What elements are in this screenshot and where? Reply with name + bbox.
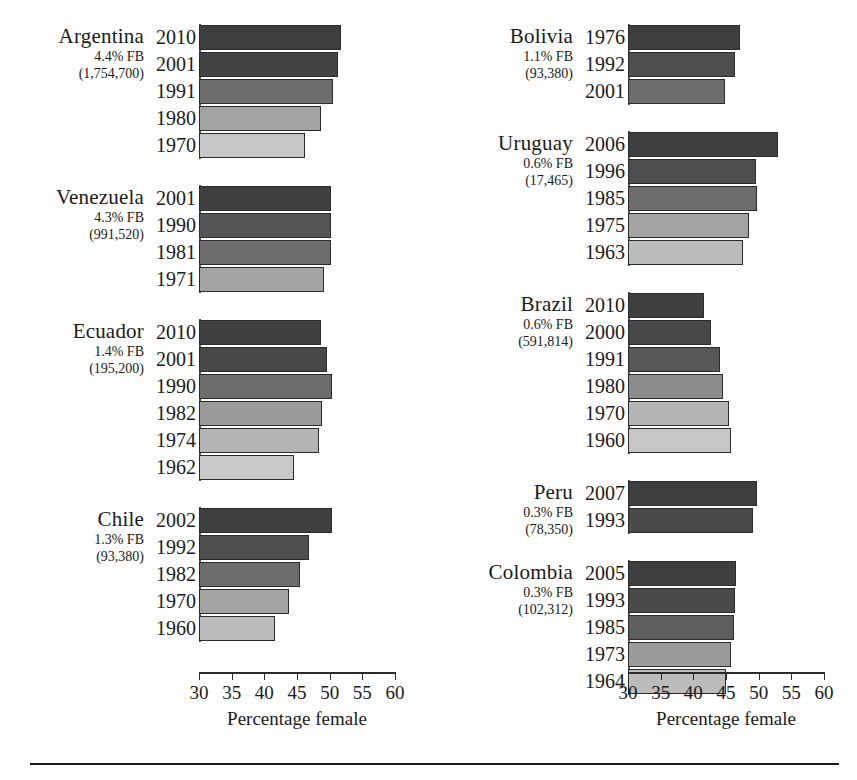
bar-1991 (199, 79, 333, 104)
bar-track (628, 24, 857, 51)
country-fb-percent: 0.3% FB (429, 504, 573, 521)
bar-track (199, 400, 428, 427)
bar-row: 1976 (579, 24, 857, 51)
bar-2006 (628, 132, 778, 157)
bar-row: 2007 (579, 480, 857, 507)
bar-2001 (199, 186, 331, 211)
x-tick (297, 672, 298, 680)
bar-year-label: 1981 (150, 239, 196, 266)
country-fb-count: (195,200) (0, 360, 144, 377)
country-group-ecuador: Ecuador1.4% FB(195,200)20102001199019821… (0, 319, 428, 481)
country-fb-percent: 0.3% FB (429, 584, 573, 601)
bar-2007 (628, 481, 757, 506)
country-group-colombia: Colombia0.3% FB(102,312)2005199319851973… (429, 560, 857, 695)
bar-year-label: 1973 (579, 641, 625, 668)
country-label-block: Colombia0.3% FB(102,312) (429, 560, 579, 618)
bar-year-label: 1960 (150, 615, 196, 642)
bar-year-label: 1970 (579, 400, 625, 427)
bar-row: 1980 (150, 105, 428, 132)
bar-track (628, 319, 857, 346)
figure-root: Argentina4.4% FB(1,754,700)2010200119911… (0, 0, 857, 780)
bar-track (199, 185, 428, 212)
bar-track (628, 239, 857, 266)
bar-1985 (628, 186, 757, 211)
x-axis-title: Percentage female (199, 708, 395, 730)
bar-track (199, 561, 428, 588)
bar-row: 1963 (579, 239, 857, 266)
country-label-block: Ecuador1.4% FB(195,200) (0, 319, 150, 377)
bar-1973 (628, 642, 731, 667)
bar-year-label: 1963 (579, 239, 625, 266)
bar-row: 1971 (150, 266, 428, 293)
x-tick-label: 45 (717, 682, 736, 704)
footer-rule (30, 763, 839, 765)
bar-track (199, 319, 428, 346)
x-tick (362, 672, 363, 680)
bar-row: 2000 (579, 319, 857, 346)
bar-year-label: 2010 (150, 319, 196, 346)
x-tick-label: 60 (386, 682, 405, 704)
bar-2001 (628, 79, 725, 104)
bar-rows: 20071993 (579, 480, 857, 534)
country-fb-percent: 1.1% FB (429, 48, 573, 65)
country-label-block: Peru0.3% FB(78,350) (429, 480, 579, 538)
bar-row: 1990 (150, 212, 428, 239)
x-tick-label: 35 (222, 682, 241, 704)
bar-year-label: 1991 (579, 346, 625, 373)
bar-track (199, 346, 428, 373)
bar-1991 (628, 347, 720, 372)
bar-year-label: 1991 (150, 78, 196, 105)
x-tick (264, 672, 265, 680)
x-tick-label: 45 (288, 682, 307, 704)
bar-1960 (199, 616, 275, 641)
bar-row: 1970 (150, 132, 428, 159)
bar-year-label: 2001 (150, 346, 196, 373)
bar-year-label: 2001 (579, 78, 625, 105)
country-name: Chile (0, 507, 144, 531)
bar-row: 2001 (150, 346, 428, 373)
x-tick (628, 672, 629, 680)
bar-year-label: 2010 (579, 292, 625, 319)
country-label-block: Uruguay0.6% FB(17,465) (429, 131, 579, 189)
bar-year-label: 2005 (579, 560, 625, 587)
x-tick (726, 672, 727, 680)
bar-row: 1975 (579, 212, 857, 239)
bar-year-label: 2002 (150, 507, 196, 534)
bar-rows: 20051993198519731964 (579, 560, 857, 695)
bar-year-label: 1990 (150, 373, 196, 400)
country-fb-count: (17,465) (429, 172, 573, 189)
x-tick-label: 60 (815, 682, 834, 704)
country-label-block: Bolivia1.1% FB(93,380) (429, 24, 579, 82)
bar-track (628, 158, 857, 185)
bar-2000 (628, 320, 711, 345)
bar-year-label: 1960 (579, 427, 625, 454)
bar-year-label: 1962 (150, 454, 196, 481)
x-tick (661, 672, 662, 680)
country-fb-percent: 0.6% FB (429, 316, 573, 333)
bar-year-label: 1980 (150, 105, 196, 132)
bar-year-label: 1980 (579, 373, 625, 400)
bar-row: 1996 (579, 158, 857, 185)
bar-row: 1960 (579, 427, 857, 454)
country-group-venezuela: Venezuela4.3% FB(991,520)200119901981197… (0, 185, 428, 293)
bar-track (628, 51, 857, 78)
bar-1962 (199, 455, 294, 480)
x-tick (759, 672, 760, 680)
bar-1970 (199, 133, 305, 158)
bar-rows: 201020001991198019701960 (579, 292, 857, 454)
bar-track (199, 427, 428, 454)
bar-1993 (628, 508, 753, 533)
bar-1990 (199, 213, 331, 238)
x-tick (693, 672, 694, 680)
bar-row: 1985 (579, 185, 857, 212)
x-tick-label: 40 (255, 682, 274, 704)
bar-row: 2010 (150, 319, 428, 346)
bar-row: 1970 (579, 400, 857, 427)
bar-year-label: 1982 (150, 561, 196, 588)
bar-row: 2001 (579, 78, 857, 105)
bar-row: 1970 (150, 588, 428, 615)
bar-1992 (628, 52, 735, 77)
bar-track (628, 185, 857, 212)
bar-track (199, 105, 428, 132)
bar-track (199, 51, 428, 78)
